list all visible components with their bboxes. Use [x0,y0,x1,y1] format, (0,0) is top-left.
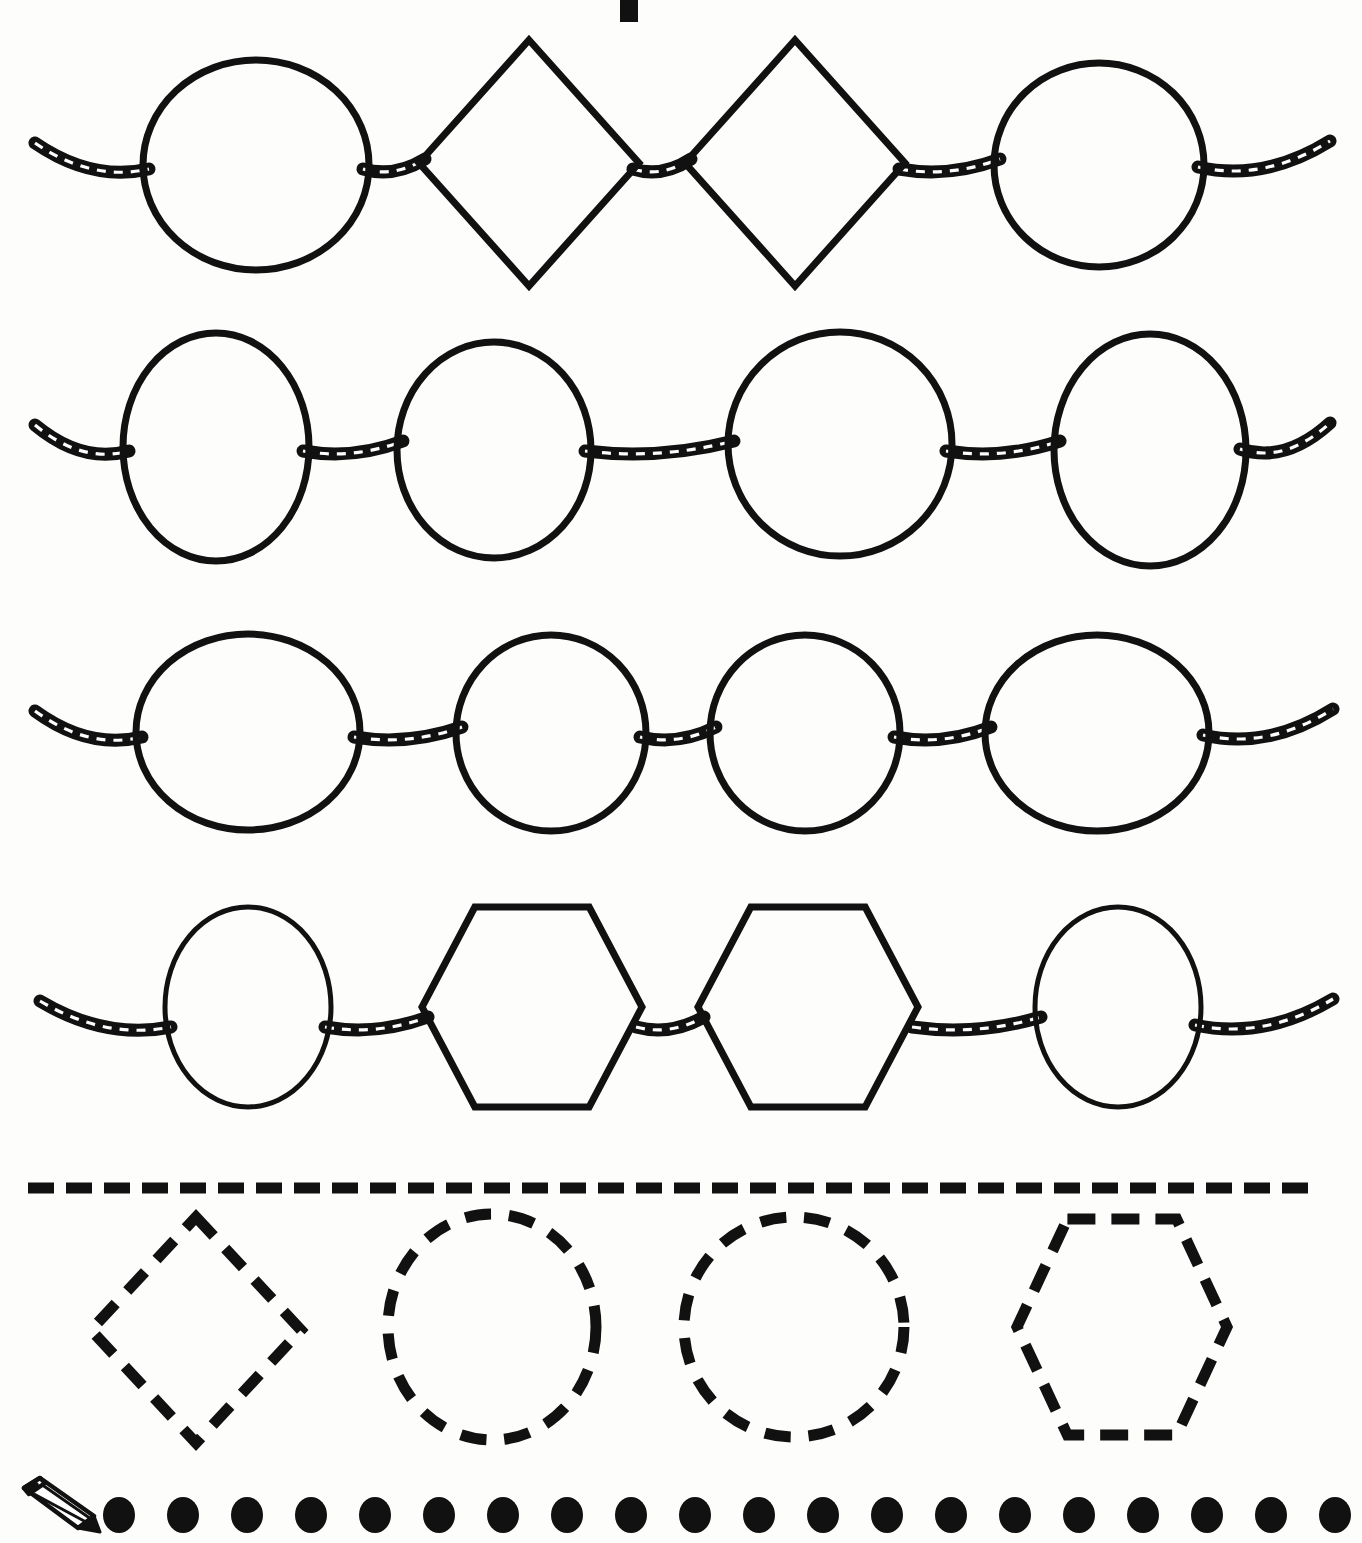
divider-dash [712,1183,738,1194]
divider-dash [788,1183,814,1194]
tracing-dot[interactable] [807,1497,839,1533]
divider-dash [1130,1183,1156,1194]
divider-dash [332,1183,358,1194]
divider-dash [636,1183,662,1194]
tracing-dot[interactable] [743,1497,775,1533]
tracing-dot[interactable] [423,1497,455,1533]
cropped-title-mark-glyph [620,0,638,22]
tracing-dot[interactable] [167,1497,199,1533]
divider-dash [256,1183,282,1194]
divider-dash [978,1183,1004,1194]
divider-dash [180,1183,206,1194]
tracing-dot[interactable] [1191,1497,1223,1533]
divider-dash [864,1183,890,1194]
tracing-dot[interactable] [359,1497,391,1533]
tracing-dot[interactable] [551,1497,583,1533]
divider-dash [1244,1183,1270,1194]
divider-dash [484,1183,510,1194]
tracing-dot[interactable] [999,1497,1031,1533]
worksheet-canvas [0,0,1362,1543]
divider-dash [560,1183,586,1194]
divider-dash [598,1183,624,1194]
worksheet-page [0,0,1362,1543]
tracing-dot[interactable] [231,1497,263,1533]
tracing-dot[interactable] [1127,1497,1159,1533]
tracing-dot[interactable] [295,1497,327,1533]
divider-dash [142,1183,168,1194]
divider-dash [902,1183,928,1194]
divider-dash [1054,1183,1080,1194]
divider-dash [28,1183,54,1194]
tracing-dot[interactable] [103,1497,135,1533]
divider-dash [408,1183,434,1194]
divider-dash [294,1183,320,1194]
tracing-dot[interactable] [615,1497,647,1533]
divider-dash [1092,1183,1118,1194]
tracing-dot[interactable] [1063,1497,1095,1533]
divider-dash [1282,1183,1308,1194]
cropped-title-mark [620,0,638,22]
divider-dash [750,1183,776,1194]
divider-dash [826,1183,852,1194]
divider-dash [66,1183,92,1194]
divider-dash [218,1183,244,1194]
tracing-dot[interactable] [871,1497,903,1533]
divider-dash [940,1183,966,1194]
tracing-dot[interactable] [679,1497,711,1533]
divider-dash [674,1183,700,1194]
divider-dash [522,1183,548,1194]
divider-dash [446,1183,472,1194]
tracing-dot[interactable] [487,1497,519,1533]
divider-dash [104,1183,130,1194]
divider-dash [1016,1183,1042,1194]
divider-dash [1206,1183,1232,1194]
tracing-dot[interactable] [935,1497,967,1533]
divider-dash [370,1183,396,1194]
tracing-dot[interactable] [1319,1497,1351,1533]
tracing-dot[interactable] [1255,1497,1287,1533]
divider-dash [1168,1183,1194,1194]
